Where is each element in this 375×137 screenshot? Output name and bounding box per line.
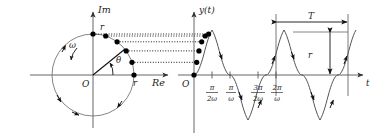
sine-plot-group: O y(t) t r T π 2ω π ω 3π — [178, 5, 370, 133]
wave-point — [199, 39, 204, 44]
tick-numerator: 2π — [271, 84, 281, 92]
period-label: T — [308, 11, 315, 21]
tick-denominator: 2ω — [206, 95, 217, 103]
x-tick-labels: π 2ω π ω 3π 2ω 2π ω — [206, 84, 283, 103]
complex-plane-group: r r O Im Re ω θ — [30, 4, 168, 128]
x-tick-label: π ω — [226, 84, 236, 103]
x-tick-label: 2π ω — [271, 84, 283, 103]
x-tick-label: π 2ω — [206, 84, 218, 103]
right-origin-label: O — [182, 79, 190, 89]
theta-arc-arrow — [110, 63, 113, 75]
circle-direction-arrow — [57, 95, 61, 102]
real-axis-label: Re — [151, 77, 165, 88]
tick-denominator: 2ω — [252, 95, 263, 103]
radius-right-label: r — [133, 78, 138, 88]
wave-direction-arrow — [330, 100, 333, 108]
y-axis-label: y(t) — [198, 5, 215, 15]
radius-top-label: r — [100, 22, 105, 32]
amplitude-label: r — [308, 50, 313, 60]
figure-canvas: r r O Im Re ω θ — [0, 0, 375, 137]
time-axis-label: t — [366, 78, 370, 88]
tick-numerator: 3π — [253, 84, 262, 92]
tick-numerator: π — [209, 84, 215, 92]
theta-label: θ — [116, 55, 121, 65]
tick-denominator: ω — [274, 95, 280, 103]
wave-point — [196, 48, 201, 53]
wave-point — [194, 60, 199, 65]
tick-numerator: π — [228, 84, 234, 92]
left-origin-label: O — [82, 79, 90, 89]
imaginary-axis-label: Im — [97, 4, 111, 15]
omega-label: ω — [69, 40, 76, 50]
circular-motion-sine-wave-figure: r r O Im Re ω θ — [0, 0, 375, 137]
x-tick-label: 3π 2ω — [251, 84, 265, 103]
tick-denominator: ω — [228, 95, 234, 103]
wave-point — [206, 31, 211, 36]
wave-point — [191, 72, 196, 77]
circle-point — [131, 72, 136, 77]
